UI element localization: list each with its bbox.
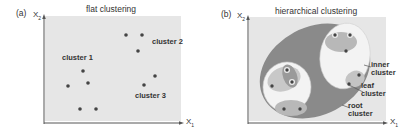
- root-cluster-label: root cluster: [348, 102, 373, 118]
- data-point: [136, 49, 140, 53]
- data-point: [333, 33, 336, 36]
- flat-clustering-plot: [0, 0, 208, 132]
- x-axis-arrow-icon: [383, 121, 388, 125]
- data-point: [78, 107, 82, 111]
- data-point: [66, 84, 70, 88]
- root-cluster-label-line2: cluster: [348, 110, 373, 118]
- data-point: [348, 33, 351, 36]
- plot-background: [45, 16, 181, 121]
- x-axis-arrow-icon: [179, 121, 184, 125]
- data-point: [282, 107, 285, 110]
- y-axis-label-sub: 2: [242, 16, 245, 22]
- data-point: [357, 73, 360, 76]
- data-point: [270, 84, 273, 87]
- cluster-3-label: cluster 3: [135, 92, 166, 100]
- x-axis-label: X1: [186, 117, 194, 128]
- panel-b-title: hierarchical clustering: [275, 6, 357, 16]
- data-point: [81, 69, 85, 73]
- panel-hierarchical-clustering: (b) X2 X1 hierarchical clustering inner …: [205, 0, 417, 132]
- leaf-cluster-label: leaf cluster: [361, 82, 386, 98]
- y-axis-label: X2: [237, 11, 245, 22]
- panel-b-label: (b): [221, 9, 231, 19]
- x-axis-label-sub: 1: [395, 122, 398, 128]
- data-point: [94, 107, 98, 111]
- x-axis-label-sub: 1: [191, 122, 194, 128]
- y-axis-label: X2: [33, 10, 41, 21]
- leaf-cluster-label-line2: cluster: [361, 90, 386, 98]
- panel-a-label: (a): [16, 8, 26, 18]
- cluster-1-label: cluster 1: [62, 54, 93, 62]
- data-point: [142, 83, 146, 87]
- inner-cluster-label: inner cluster: [371, 61, 396, 77]
- data-point: [290, 80, 293, 83]
- panel-flat-clustering: (a) X2 X1 flat clustering cluster 1 clus…: [0, 0, 208, 132]
- data-point: [86, 81, 90, 85]
- x-axis-label: X1: [390, 117, 398, 128]
- data-point: [298, 107, 301, 110]
- inner-cluster-label-line2: cluster: [371, 69, 396, 77]
- cluster-2-label: cluster 2: [152, 38, 183, 46]
- data-point: [124, 33, 128, 37]
- data-point: [153, 74, 157, 78]
- data-point: [140, 33, 144, 37]
- data-point: [285, 68, 288, 71]
- leaf-cluster: [275, 100, 307, 116]
- data-point: [344, 49, 347, 52]
- y-axis-label-sub: 2: [38, 15, 41, 21]
- panel-a-title: flat clustering: [86, 4, 136, 14]
